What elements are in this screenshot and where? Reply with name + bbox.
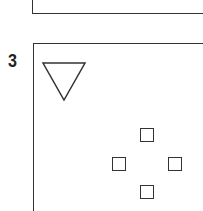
panel-number-label: 3	[8, 51, 17, 70]
square-top	[140, 128, 154, 142]
square-right	[168, 157, 182, 171]
panel-previous	[32, 0, 203, 14]
down-triangle-icon	[42, 62, 86, 102]
square-bottom	[140, 185, 154, 199]
square-left	[112, 157, 126, 171]
